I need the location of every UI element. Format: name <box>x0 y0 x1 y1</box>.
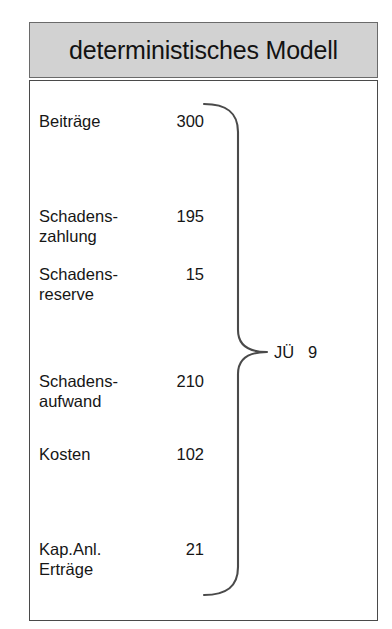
line-item-value: 15 <box>30 264 204 284</box>
summary-result-label: JÜ 9 <box>274 342 317 362</box>
figure-body-panel: Beiträge300Schadens- zahlung195Schadens-… <box>29 80 378 621</box>
figure-title-bar: deterministisches Modell <box>29 22 378 78</box>
line-item-value: 210 <box>30 371 204 391</box>
line-item-value: 21 <box>30 539 204 559</box>
line-item-value: 102 <box>30 444 204 464</box>
deterministic-model-figure: deterministisches Modell Beiträge300Scha… <box>0 0 392 629</box>
line-item-value: 195 <box>30 206 204 226</box>
figure-title: deterministisches Modell <box>69 38 338 63</box>
line-item-value: 300 <box>30 111 204 131</box>
